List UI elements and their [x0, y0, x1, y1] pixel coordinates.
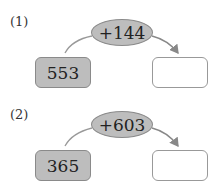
problem-1-answer-box[interactable] [152, 57, 208, 88]
problem-1-operation: +144 [91, 19, 153, 46]
problem-1-label: (1) [10, 14, 28, 29]
problem-2-operation: +603 [91, 111, 153, 138]
problem-1-start-box: 553 [35, 57, 91, 88]
problem-2-start-box: 365 [35, 150, 91, 181]
problem-2-answer-box[interactable] [152, 150, 208, 181]
problem-2-label: (2) [10, 107, 28, 122]
